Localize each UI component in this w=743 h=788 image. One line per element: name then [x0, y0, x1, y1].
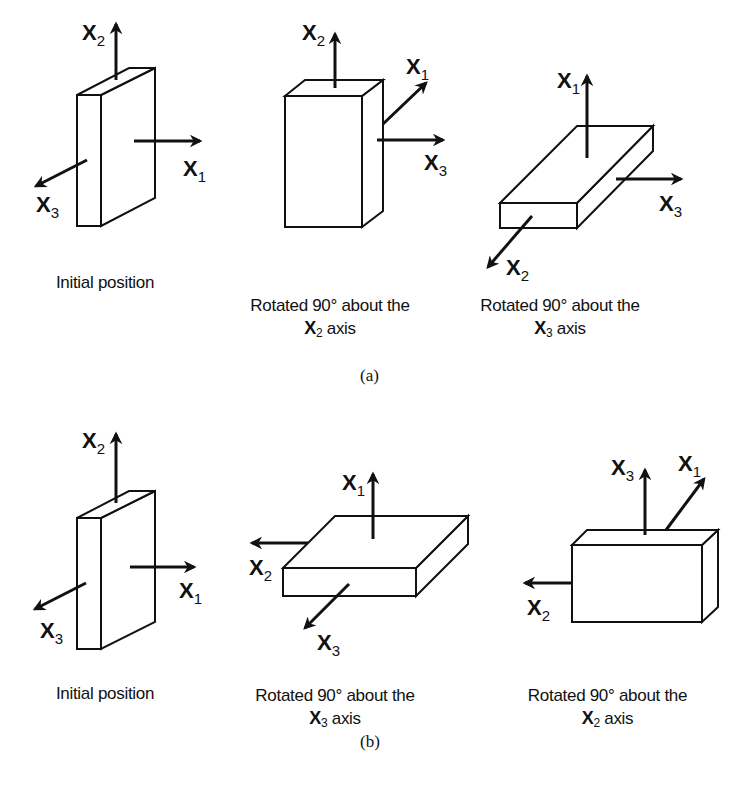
axis-label-x1: X1 [678, 451, 701, 480]
caption-line1: Rotated 90° about the [225, 295, 435, 317]
slab-front-face [283, 568, 416, 596]
axis-label-x1: X1 [342, 470, 365, 499]
caption-a2: Rotated 90° about the X2 axis [225, 295, 435, 344]
axis-label-x3: X3 [36, 192, 59, 221]
caption-line2: X2 axis [500, 707, 715, 734]
box-front-face [572, 545, 702, 622]
axis-label-x2: X2 [82, 428, 105, 457]
rotation-diagram: X2 X1 X3 X2 X1 X3 X1 X3 X2 X2 X1 [0, 0, 743, 788]
panel-a1-initial-slab: X2 X1 X3 [36, 20, 206, 226]
axis-label-x3: X3 [611, 455, 634, 484]
part-label-a: (a) [360, 366, 379, 386]
part-label-b: (b) [360, 732, 380, 752]
axis-label-x1: X1 [179, 578, 202, 607]
arrow-x1-icon [666, 479, 704, 530]
box-front-face [285, 96, 362, 227]
caption-b3: Rotated 90° about the X2 axis [500, 685, 715, 734]
caption-a3: Rotated 90° about the X3 axis [455, 295, 665, 344]
caption-line1: Initial position [20, 272, 190, 294]
panel-b3-rotated-x2: X3 X1 X2 [525, 451, 718, 624]
arrow-x1-icon [383, 83, 426, 124]
axis-label-x3: X3 [424, 150, 447, 179]
caption-line1: Initial position [20, 683, 190, 705]
panel-b1-initial-slab: X2 X1 X3 [35, 428, 202, 649]
slab-side-face [77, 95, 101, 226]
caption-line2: X2 axis [225, 317, 435, 344]
panel-a2-rotated-x2: X2 X1 X3 [285, 20, 447, 227]
axis-label-x3: X3 [317, 630, 340, 659]
plank-front-face [500, 203, 577, 228]
axis-label-x2: X2 [82, 20, 105, 49]
axis-label-x2: X2 [249, 555, 272, 584]
caption-line1: Rotated 90° about the [230, 685, 440, 707]
axis-label-x2: X2 [302, 20, 325, 49]
axis-label-x2: X2 [527, 595, 550, 624]
panel-a3-rotated-x3: X1 X3 X2 [488, 68, 682, 284]
axis-label-x3: X3 [659, 191, 682, 220]
panel-b2-rotated-x3: X1 X2 X3 [249, 470, 468, 659]
axis-label-x2: X2 [506, 255, 529, 284]
axis-label-x1: X1 [183, 156, 206, 185]
caption-a1: Initial position [20, 272, 190, 294]
axis-label-x3: X3 [40, 618, 63, 647]
caption-b2: Rotated 90° about the X3 axis [230, 685, 440, 734]
box-side-face [362, 80, 383, 227]
caption-line2: X3 axis [455, 317, 665, 344]
axis-label-x1: X1 [406, 54, 429, 83]
caption-line1: Rotated 90° about the [500, 685, 715, 707]
caption-line1: Rotated 90° about the [455, 295, 665, 317]
caption-line2: X3 axis [230, 707, 440, 734]
caption-b1: Initial position [20, 683, 190, 705]
slab-side-face [77, 518, 101, 649]
axis-label-x1: X1 [557, 68, 580, 97]
